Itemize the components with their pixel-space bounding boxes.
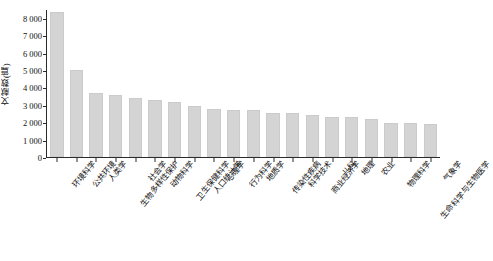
bar bbox=[168, 102, 181, 157]
y-axis-title: 文献数(篇) bbox=[2, 34, 16, 134]
x-tick-label: 气象学 bbox=[443, 160, 465, 184]
bar bbox=[227, 110, 240, 157]
bar-cell bbox=[47, 10, 67, 157]
bar-cell bbox=[420, 10, 440, 157]
bar-cell bbox=[263, 10, 283, 157]
y-tick-mark bbox=[43, 88, 46, 89]
bar-cell bbox=[401, 10, 421, 157]
bar-cell bbox=[204, 10, 224, 157]
bar bbox=[148, 100, 161, 157]
bar bbox=[247, 110, 260, 157]
y-tick-mark bbox=[43, 36, 46, 37]
bar-cell bbox=[322, 10, 342, 157]
bar bbox=[325, 117, 338, 157]
bar-cell bbox=[362, 10, 382, 157]
bar-cell bbox=[224, 10, 244, 157]
bar-cell bbox=[342, 10, 362, 157]
bar-cell bbox=[283, 10, 303, 157]
y-tick-mark bbox=[43, 71, 46, 72]
plot-area: 01 0002 0003 0004 0005 0006 0007 0008 00… bbox=[46, 10, 440, 158]
bar bbox=[345, 117, 358, 157]
x-axis-line bbox=[46, 157, 440, 158]
y-tick-mark bbox=[43, 123, 46, 124]
y-tick-mark bbox=[43, 54, 46, 55]
bar-cell bbox=[165, 10, 185, 157]
bar bbox=[70, 70, 83, 157]
y-tick-mark bbox=[43, 106, 46, 107]
y-tick-mark bbox=[43, 19, 46, 20]
bar bbox=[129, 98, 142, 157]
x-axis-labels: 环境科学公共环境人类学生物多样性保护社会学动物科学卫生保健科学人口统计学心理学行… bbox=[46, 160, 440, 260]
x-tick-label: 地理 bbox=[361, 160, 378, 178]
bar-cell bbox=[86, 10, 106, 157]
bar-cell bbox=[126, 10, 146, 157]
bar-cell bbox=[303, 10, 323, 157]
bar bbox=[207, 109, 220, 157]
bar bbox=[404, 123, 417, 157]
bar bbox=[188, 106, 201, 157]
y-tick-mark bbox=[43, 141, 46, 142]
y-tick-mark bbox=[43, 158, 46, 159]
bar bbox=[365, 119, 378, 157]
x-tick-label: 农业 bbox=[381, 160, 398, 178]
bar-cell bbox=[106, 10, 126, 157]
bar-series bbox=[47, 10, 440, 157]
bar-cell bbox=[244, 10, 264, 157]
bar bbox=[109, 95, 122, 157]
x-tick-label: 物理科学 bbox=[406, 160, 433, 190]
bar bbox=[306, 115, 319, 157]
bar-cell bbox=[381, 10, 401, 157]
bar bbox=[266, 113, 279, 157]
bar bbox=[424, 124, 437, 157]
bar bbox=[89, 93, 102, 157]
bar bbox=[50, 12, 63, 157]
bar-cell bbox=[145, 10, 165, 157]
bar-cell bbox=[185, 10, 205, 157]
bar bbox=[286, 113, 299, 157]
bar bbox=[384, 123, 397, 157]
bar-cell bbox=[67, 10, 87, 157]
